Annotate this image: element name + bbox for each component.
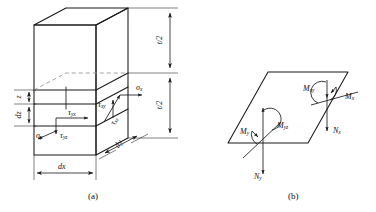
label-tau-yx: τyx [68, 109, 76, 117]
label-thickness-upper-half: t/2 [156, 36, 164, 44]
hidden-mid-plane [34, 73, 128, 90]
label-tau-yz: τyz [60, 132, 67, 140]
label-moment-y: My [240, 128, 249, 136]
arrow-moment-y-tip [252, 131, 258, 137]
moment-xy-symbol: M [303, 84, 310, 93]
label-shear-ny: Ny [254, 173, 262, 181]
label-coordinate-z: z [15, 95, 23, 98]
figure-vector-canvas [0, 0, 376, 212]
moment-xy-subscript: xy [310, 87, 315, 93]
label-moment-yz: Myz [277, 122, 288, 130]
shear-ny-subscript: y [259, 175, 261, 181]
arrow-moment-x-tip [331, 87, 336, 93]
dim-depth-dy [99, 134, 148, 159]
label-thickness-lower-half: t/2 [156, 101, 164, 109]
label-element-width-dx: dx [58, 163, 66, 171]
label-sigma-y: σy [36, 132, 42, 140]
dim-thickness-upper [128, 8, 178, 73]
panel-b-left-resultants [243, 108, 281, 174]
block-top-face [34, 8, 128, 25]
panel-b-right-resultants [311, 80, 358, 131]
sigma-x-subscript: x [140, 86, 142, 92]
caption-panel-b: (b) [288, 191, 299, 201]
sigma-y-subscript: y [40, 134, 42, 140]
moment-yz-subscript: yz [284, 124, 289, 130]
moment-x-symbol: M [345, 92, 352, 101]
moment-y-symbol: M [240, 127, 247, 136]
moment-yz-symbol: M [277, 121, 284, 130]
stress-arrows [38, 95, 142, 139]
label-tau-xy: τxy [98, 101, 106, 109]
label-moment-xy: Mxy [303, 85, 315, 93]
moment-x-subscript: x [352, 95, 354, 101]
hidden-mid-plane-path [34, 73, 128, 90]
mid-plane-right-edge [96, 73, 128, 90]
technical-figure: t/2 t/2 z dz dx dy σx σy τyx τyz τxy τxz… [0, 0, 376, 212]
label-sigma-x: σx [136, 84, 142, 92]
ext-line-dy-far [131, 134, 148, 143]
label-slice-thickness-dz: dz [15, 111, 23, 118]
shear-nx-subscript: x [338, 129, 340, 135]
caption-panel-a: (a) [88, 191, 98, 201]
moment-y-subscript: y [247, 130, 249, 136]
tau-xy-subscript: xy [101, 103, 106, 109]
label-shear-nx: Nx [333, 127, 341, 135]
tau-yx-subscript: yx [71, 111, 76, 117]
panel-a-block [34, 8, 128, 155]
tau-yz-subscript: yz [63, 134, 68, 140]
label-moment-x: Mx [345, 93, 354, 101]
